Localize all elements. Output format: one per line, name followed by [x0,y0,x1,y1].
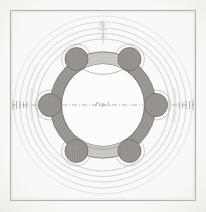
paper-vignette [0,0,206,212]
fortification-plan-drawing: fig. a Fig. I. b c [0,0,206,212]
engraving-plate: fig. a Fig. I. b c Circular fortified en… [0,0,206,212]
